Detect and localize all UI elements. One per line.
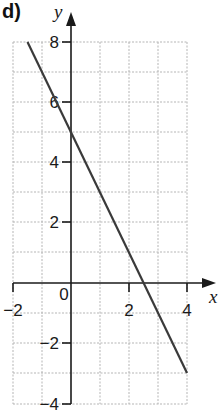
svg-text:8: 8 [50, 33, 59, 52]
y-tick-labels: 8 6 4 2 −2 −4 [40, 33, 59, 414]
graph: d) y x [0, 0, 223, 417]
svg-text:−2: −2 [40, 334, 59, 353]
svg-text:4: 4 [50, 153, 59, 172]
plotted-line [28, 42, 188, 373]
x-tick-labels: −2 0 2 4 [3, 285, 191, 320]
svg-text:0: 0 [59, 285, 68, 304]
x-axis-label: x [208, 286, 218, 307]
y-axis-label: y [52, 1, 63, 22]
svg-text:2: 2 [50, 213, 59, 232]
y-axis-arrow-icon [66, 12, 76, 26]
svg-text:−4: −4 [40, 395, 59, 414]
svg-text:4: 4 [182, 301, 191, 320]
svg-text:2: 2 [124, 301, 133, 320]
svg-text:−2: −2 [3, 301, 22, 320]
part-label: d) [2, 0, 21, 22]
